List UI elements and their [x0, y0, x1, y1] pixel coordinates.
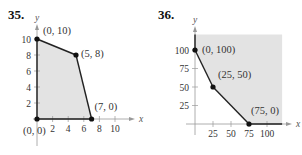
- problem-number: 35.: [8, 7, 24, 22]
- vertex-point: [246, 121, 251, 126]
- vertex-point: [210, 84, 215, 89]
- vertex-label: (0, 10): [43, 25, 71, 37]
- y-tick-label: 8: [26, 51, 31, 61]
- y-axis-label: y: [192, 15, 198, 25]
- y-axis-arrow-icon: [35, 24, 39, 30]
- figure: 35. xy246810246810(0, 0)(0, 10)(5, 8)(7,…: [0, 0, 302, 155]
- x-tick-label: 75: [244, 129, 254, 139]
- chart-36: 36. xy255075100255075100(0, 100)(25, 50)…: [158, 7, 301, 139]
- y-tick-label: 4: [26, 83, 31, 93]
- x-tick-label: 4: [66, 124, 71, 134]
- y-tick-label: 2: [26, 99, 31, 109]
- x-axis-label: x: [138, 114, 144, 124]
- x-tick-label: 10: [110, 124, 120, 134]
- x-tick-label: 100: [260, 129, 275, 139]
- y-tick-label: 100: [175, 46, 190, 56]
- vertex-point: [192, 47, 197, 52]
- problem-number: 36.: [158, 7, 174, 22]
- y-tick-label: 25: [180, 101, 190, 111]
- chart-35: 35. xy246810246810(0, 0)(0, 10)(5, 8)(7,…: [8, 7, 144, 146]
- x-axis-label: x: [295, 119, 301, 129]
- vertex-label: (25, 50): [218, 69, 252, 81]
- x-tick-label: 50: [226, 129, 236, 139]
- vertex-label: (0, 0): [23, 125, 46, 137]
- y-axis-label: y: [34, 13, 40, 23]
- vertex-point: [89, 116, 94, 121]
- vertex-label: (7, 0): [95, 101, 118, 113]
- vertex-label: (5, 8): [81, 48, 104, 60]
- y-tick-label: 50: [180, 83, 190, 93]
- x-tick-label: 2: [50, 124, 55, 134]
- vertex-point: [73, 52, 78, 57]
- x-tick-label: 25: [208, 129, 218, 139]
- vertex-point: [34, 36, 39, 41]
- vertex-label: (0, 100): [202, 44, 236, 56]
- y-tick-label: 10: [22, 35, 32, 45]
- vertex-point: [34, 116, 39, 121]
- x-axis-arrow-icon: [129, 117, 135, 121]
- x-tick-label: 8: [97, 124, 102, 134]
- x-tick-label: 6: [81, 124, 86, 134]
- y-tick-label: 6: [26, 67, 31, 77]
- vertex-label: (75, 0): [251, 105, 279, 117]
- y-axis-arrow-icon: [193, 26, 197, 32]
- x-axis-arrow-icon: [286, 122, 292, 126]
- y-tick-label: 75: [180, 64, 190, 74]
